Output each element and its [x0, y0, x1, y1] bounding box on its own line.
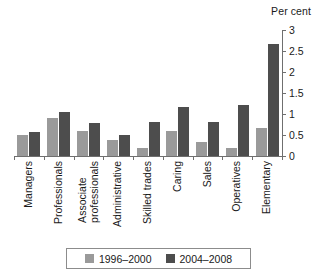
x-axis-label: Operatives — [232, 161, 244, 212]
x-axis-tick — [252, 157, 253, 160]
x-axis-tick — [282, 157, 283, 160]
bar — [107, 140, 118, 156]
x-axis-label: Administrative — [112, 161, 124, 227]
bar-group — [222, 30, 252, 156]
legend-item[interactable]: 2004–2008 — [166, 253, 233, 265]
x-axis-label-cell: Operatives — [222, 161, 252, 235]
y-axis-tick — [282, 114, 286, 115]
x-axis-label: Managers — [23, 161, 35, 208]
axis-unit-label: Per cent — [271, 5, 311, 17]
bar-chart: Per cent 00.511.522.53 ManagersProfessio… — [0, 0, 317, 280]
bar-group — [163, 30, 193, 156]
legend-swatch — [85, 254, 94, 263]
x-axis-label: Skilled trades — [142, 161, 154, 224]
x-axis-label: Elementary — [261, 161, 273, 214]
x-axis-label-cell: Managers — [14, 161, 44, 235]
y-axis-tick — [282, 135, 286, 136]
x-axis-tick — [74, 157, 75, 160]
bar-group — [74, 30, 104, 156]
x-axis-label: Sales — [202, 161, 214, 187]
bar — [137, 148, 148, 156]
bar — [238, 105, 249, 156]
y-axis-tick-label: 0 — [289, 151, 295, 161]
bar — [268, 44, 279, 156]
y-axis-tick-label: 3 — [289, 25, 295, 35]
y-axis-tick — [282, 51, 286, 52]
x-axis-label: Associateprofessionals — [77, 161, 100, 223]
y-axis-tick — [282, 72, 286, 73]
y-axis-tick-label: 0.5 — [289, 130, 304, 140]
bar — [166, 131, 177, 156]
x-axis-tick — [103, 157, 104, 160]
bar — [59, 112, 70, 156]
x-axis-label: Professionals — [53, 161, 65, 224]
bar — [256, 128, 267, 156]
x-axis-line — [14, 156, 283, 157]
y-axis-tick — [282, 93, 286, 94]
bar-group — [252, 30, 282, 156]
x-axis-labels: ManagersProfessionalsAssociateprofession… — [14, 161, 282, 235]
y-axis-tick — [282, 30, 286, 31]
legend-label: 1996–2000 — [99, 253, 152, 265]
plot-area — [14, 30, 282, 156]
x-axis-label-cell: Caring — [163, 161, 193, 235]
bar-group — [103, 30, 133, 156]
y-axis-tick-label: 2 — [289, 67, 295, 77]
x-axis-tick — [133, 157, 134, 160]
legend-item[interactable]: 1996–2000 — [85, 253, 152, 265]
bar-group — [193, 30, 223, 156]
bar — [17, 135, 28, 156]
y-axis-tick-label: 1 — [289, 109, 295, 119]
bar — [47, 118, 58, 156]
x-axis-label-cell: Professionals — [44, 161, 74, 235]
bar — [77, 131, 88, 156]
bar — [208, 122, 219, 156]
legend-label: 2004–2008 — [180, 253, 233, 265]
bar — [89, 123, 100, 156]
x-axis-tick — [44, 157, 45, 160]
bar — [29, 132, 40, 156]
legend-swatch — [166, 254, 175, 263]
bar-series-container — [14, 30, 282, 156]
y-axis-tick-label: 1.5 — [289, 88, 304, 98]
bar — [149, 122, 160, 156]
y-axis-tick-label: 2.5 — [289, 46, 304, 56]
x-axis-tick — [222, 157, 223, 160]
bar-group — [14, 30, 44, 156]
x-axis-label-cell: Associateprofessionals — [74, 161, 104, 235]
bar — [178, 107, 189, 156]
bar-group — [133, 30, 163, 156]
x-axis-label-cell: Elementary — [252, 161, 282, 235]
y-axis: 00.511.522.53 — [282, 30, 317, 156]
x-axis-label: Caring — [172, 161, 184, 192]
chart-legend: 1996–20002004–2008 — [66, 248, 251, 269]
x-axis-tick — [193, 157, 194, 160]
bar — [119, 135, 130, 156]
x-axis-tick — [14, 157, 15, 160]
x-axis-label-cell: Skilled trades — [133, 161, 163, 235]
bar — [226, 148, 237, 156]
bar — [196, 142, 207, 156]
x-axis-label-cell: Sales — [193, 161, 223, 235]
x-axis-label-cell: Administrative — [103, 161, 133, 235]
bar-group — [44, 30, 74, 156]
x-axis-tick — [163, 157, 164, 160]
